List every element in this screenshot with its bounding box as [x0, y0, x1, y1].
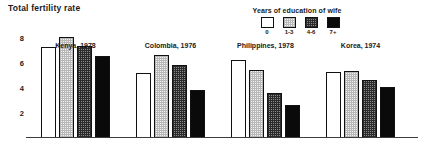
bar-group [136, 55, 205, 138]
bar-group [41, 37, 110, 137]
legend-title: Years of education of wife [232, 7, 362, 14]
bar[interactable] [344, 71, 359, 137]
bar[interactable] [380, 87, 395, 137]
legend-swatch [327, 17, 340, 28]
legend-swatch [261, 17, 274, 28]
x-axis-line [26, 137, 418, 138]
group-axis-label: Philippines, 1978 [219, 42, 312, 49]
group-axis-label: Korea, 1974 [314, 42, 407, 49]
bar[interactable] [231, 60, 246, 138]
bar[interactable] [59, 37, 74, 137]
bar[interactable] [267, 93, 282, 137]
bar[interactable] [41, 47, 56, 137]
bar[interactable] [172, 65, 187, 138]
legend-swatch [283, 17, 296, 28]
bar-group [231, 60, 300, 138]
bar[interactable] [326, 72, 341, 137]
group-axis-label: Colombia, 1976 [124, 42, 217, 49]
bar[interactable] [154, 55, 169, 138]
y-axis-tick-label: 2 [20, 109, 24, 118]
bar[interactable] [362, 80, 377, 138]
bar-group [326, 71, 395, 137]
legend-swatch [305, 17, 318, 28]
fertility-rate-bar-chart: Total fertility rate Years of education … [0, 0, 426, 164]
bar[interactable] [190, 90, 205, 138]
group-axis-label: Kenya, 1978 [29, 42, 122, 49]
y-axis-tick-label: 4 [20, 84, 24, 93]
plot-area: 8642 Kenya, 1978Colombia, 1976Philippine… [30, 28, 418, 138]
y-axis-tick-label: 6 [20, 59, 24, 68]
chart-title: Total fertility rate [8, 3, 80, 13]
bar[interactable] [285, 105, 300, 138]
bar[interactable] [249, 70, 264, 138]
bar[interactable] [77, 46, 92, 137]
bar[interactable] [95, 56, 110, 137]
y-axis-tick-label: 8 [20, 34, 24, 43]
bar[interactable] [136, 73, 151, 137]
